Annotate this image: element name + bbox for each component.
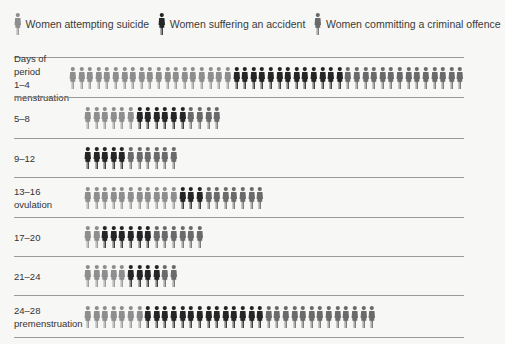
- woman-figure-icon: [110, 146, 118, 170]
- figure-group: [69, 66, 465, 90]
- phase-label: premenstruation: [14, 317, 84, 330]
- woman-figure-icon: [101, 146, 109, 170]
- woman-figure-icon: [136, 186, 144, 210]
- woman-figure-icon: [127, 305, 135, 329]
- woman-figure-icon: [344, 66, 352, 90]
- row-label: 17–20: [14, 231, 84, 244]
- woman-figure-icon: [86, 66, 94, 90]
- woman-figure-icon: [153, 264, 161, 288]
- woman-figure-icon: [158, 12, 166, 36]
- woman-figure-icon: [215, 66, 223, 90]
- woman-figure-icon: [118, 264, 126, 288]
- woman-figure-icon: [282, 305, 290, 329]
- woman-figure-icon: [187, 106, 195, 130]
- woman-figure-icon: [93, 186, 101, 210]
- chart-row: 9–12: [14, 138, 464, 177]
- woman-figure-icon: [127, 225, 135, 249]
- woman-figure-icon: [101, 225, 109, 249]
- woman-figure-icon: [84, 225, 92, 249]
- woman-figure-icon: [342, 305, 350, 329]
- woman-figure-icon: [14, 12, 22, 36]
- figure-group: [84, 225, 205, 249]
- legend-label: Women suffering an accident: [170, 18, 306, 30]
- woman-figure-icon: [248, 305, 256, 329]
- woman-figure-icon: [112, 66, 120, 90]
- woman-figure-icon: [118, 146, 126, 170]
- legend-item-accident: Women suffering an accident: [158, 12, 305, 36]
- legend-item-suicide: Women attempting suicide: [14, 12, 149, 36]
- chart-row: 24–28premenstruation: [14, 295, 464, 338]
- chart-row: 13–16ovulation: [14, 177, 464, 217]
- woman-figure-icon: [164, 66, 172, 90]
- woman-figure-icon: [179, 106, 187, 130]
- woman-figure-icon: [276, 66, 284, 90]
- woman-figure-icon: [413, 66, 421, 90]
- woman-figure-icon: [161, 186, 169, 210]
- woman-figure-icon: [239, 305, 247, 329]
- woman-figure-icon: [222, 305, 230, 329]
- woman-figure-icon: [205, 305, 213, 329]
- woman-figure-icon: [170, 146, 178, 170]
- woman-figure-icon: [136, 146, 144, 170]
- woman-figure-icon: [314, 12, 322, 36]
- woman-figure-icon: [127, 186, 135, 210]
- woman-figure-icon: [172, 66, 180, 90]
- woman-figure-icon: [431, 66, 439, 90]
- pictogram-chart: Days of period1–4menstruation5–89–1213–1…: [14, 57, 464, 338]
- woman-figure-icon: [233, 66, 241, 90]
- woman-figure-icon: [196, 305, 204, 329]
- woman-figure-icon: [136, 225, 144, 249]
- figure-group: [84, 106, 222, 130]
- woman-figure-icon: [110, 106, 118, 130]
- chart-row: 5–8: [14, 97, 464, 138]
- woman-figure-icon: [205, 106, 213, 130]
- woman-figure-icon: [301, 66, 309, 90]
- woman-figure-icon: [101, 106, 109, 130]
- woman-figure-icon: [153, 106, 161, 130]
- woman-figure-icon: [161, 305, 169, 329]
- legend-label: Women committing a criminal offence: [326, 18, 501, 30]
- woman-figure-icon: [310, 66, 318, 90]
- woman-figure-icon: [161, 146, 169, 170]
- woman-figure-icon: [293, 66, 301, 90]
- woman-figure-icon: [189, 66, 197, 90]
- woman-figure-icon: [207, 66, 215, 90]
- woman-figure-icon: [439, 66, 447, 90]
- woman-figure-icon: [258, 66, 266, 90]
- woman-figure-icon: [161, 106, 169, 130]
- woman-figure-icon: [325, 305, 333, 329]
- woman-figure-icon: [213, 106, 221, 130]
- woman-figure-icon: [213, 186, 221, 210]
- woman-figure-icon: [93, 225, 101, 249]
- woman-figure-icon: [368, 305, 376, 329]
- woman-figure-icon: [316, 305, 324, 329]
- period-range: 21–24: [14, 270, 84, 283]
- chart-row: Days of period1–4menstruation: [14, 57, 464, 97]
- woman-figure-icon: [396, 66, 404, 90]
- woman-figure-icon: [456, 66, 464, 90]
- woman-figure-icon: [179, 225, 187, 249]
- phase-label: ovulation: [14, 198, 84, 211]
- woman-figure-icon: [405, 66, 413, 90]
- woman-figure-icon: [136, 305, 144, 329]
- woman-figure-icon: [127, 146, 135, 170]
- woman-figure-icon: [127, 106, 135, 130]
- woman-figure-icon: [291, 305, 299, 329]
- woman-figure-icon: [69, 66, 77, 90]
- woman-figure-icon: [308, 305, 316, 329]
- woman-figure-icon: [196, 186, 204, 210]
- days-of-period-header: Days of period: [14, 52, 69, 78]
- woman-figure-icon: [334, 305, 342, 329]
- woman-figure-icon: [353, 66, 361, 90]
- woman-figure-icon: [170, 264, 178, 288]
- woman-figure-icon: [144, 305, 152, 329]
- woman-figure-icon: [84, 264, 92, 288]
- woman-figure-icon: [118, 186, 126, 210]
- woman-figure-icon: [103, 66, 111, 90]
- woman-figure-icon: [187, 186, 195, 210]
- woman-figure-icon: [170, 186, 178, 210]
- period-range: 9–12: [14, 152, 84, 165]
- woman-figure-icon: [144, 225, 152, 249]
- woman-figure-icon: [267, 66, 275, 90]
- woman-figure-icon: [196, 225, 204, 249]
